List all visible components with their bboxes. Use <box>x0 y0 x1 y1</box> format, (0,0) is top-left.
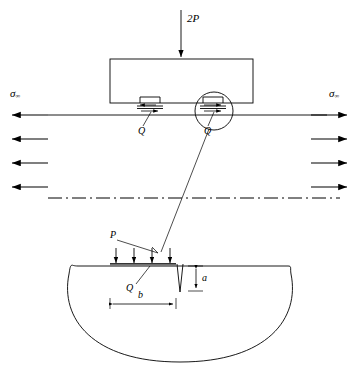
label-normal-load: 2P <box>187 12 199 24</box>
pressure-label-leaders <box>117 240 158 253</box>
remote-stress-arrows-left <box>12 115 48 187</box>
label-crack-depth: a <box>202 272 207 283</box>
detail-shear-leader <box>136 266 150 284</box>
left-contact-detail <box>137 97 163 126</box>
sigma-subscript-right: ∞ <box>334 92 338 99</box>
fretting-contact-figure: 2P σ∞ σ∞ Q Q P Q a b <box>0 0 360 370</box>
label-detail-shear: Q <box>126 282 133 293</box>
label-remote-stress-left: σ∞ <box>10 87 20 99</box>
detail-leader-line <box>161 129 209 252</box>
sigma-subscript-left: ∞ <box>15 92 19 99</box>
pad-block <box>110 59 253 103</box>
remote-stress-arrows-right <box>311 115 347 187</box>
right-contact-detail <box>200 97 226 126</box>
specimen-body-outline <box>68 265 293 362</box>
label-shear-left: Q <box>138 125 145 136</box>
contact-width-dimension <box>110 298 176 309</box>
crack-depth-dimension <box>188 266 203 291</box>
label-remote-stress-right: σ∞ <box>329 87 339 99</box>
label-shear-right: Q <box>204 125 211 136</box>
edge-crack <box>177 264 183 292</box>
figure-canvas <box>0 0 360 370</box>
label-detail-pressure: P <box>110 229 116 240</box>
label-contact-width: b <box>138 289 143 300</box>
